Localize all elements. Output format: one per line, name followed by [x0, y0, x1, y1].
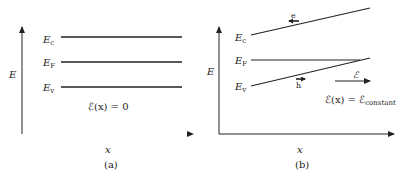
ef-label-b: EF — [234, 55, 247, 68]
caption-b: (b) — [295, 159, 309, 170]
field-arrow-label: ℰ — [353, 70, 360, 80]
ev-label-a: Ev — [42, 82, 54, 95]
ec-label-a: Ec — [42, 34, 54, 47]
field-equation-a: ℰ(x) = 0 — [88, 101, 129, 112]
x-axis-label-b: x — [297, 144, 303, 155]
hole-label: h — [296, 81, 301, 90]
conduction-band-line-b — [251, 8, 370, 35]
caption-a: (a) — [104, 159, 118, 170]
ev-label-b: Ev — [234, 81, 246, 94]
panel-a: E x (a) Ec EF Ev ℰ(x) = 0 — [0, 27, 193, 170]
ef-label-a: EF — [42, 57, 55, 70]
electron-label: e — [291, 11, 296, 20]
y-axis-label-a: E — [8, 69, 17, 80]
field-equation-b: ℰ(x) = ℰconstant — [325, 94, 396, 107]
y-axis-label-b: E — [206, 66, 215, 77]
panel-b: E x (b) Ec EF Ev e h ℰ ℰ(x) = ℰconstant — [206, 8, 396, 170]
band-diagram-figure: E x (a) Ec EF Ev ℰ(x) = 0 E x (b) Ec — [0, 0, 406, 180]
ec-label-b: Ec — [234, 32, 246, 45]
x-axis-label-a: x — [105, 144, 111, 155]
